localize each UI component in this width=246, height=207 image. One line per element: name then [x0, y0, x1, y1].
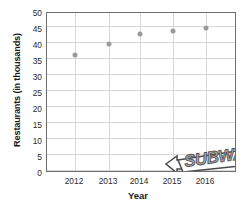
y-tick-label: 35: [22, 57, 42, 65]
gridline-vertical: [75, 13, 76, 171]
data-point: [171, 28, 176, 33]
x-tick-label: 2015: [155, 177, 189, 185]
y-tick-label: 30: [22, 73, 42, 81]
plot-area: SUBWAY ®: [46, 12, 236, 172]
y-tick-label: 5: [22, 153, 42, 161]
x-tick-label: 2013: [91, 177, 125, 185]
data-point: [204, 25, 209, 30]
gridline-vertical: [109, 13, 110, 171]
x-tick-label: 2014: [122, 177, 156, 185]
y-tick-label: 45: [22, 25, 42, 33]
svg-text:SUBWAY: SUBWAY: [183, 142, 236, 171]
data-point: [73, 52, 78, 57]
y-tick-label: 10: [22, 137, 42, 145]
subway-watermark-icon: SUBWAY ®: [165, 141, 236, 172]
y-tick-label: 40: [22, 41, 42, 49]
x-tick-label: 2016: [188, 177, 222, 185]
y-tick-label: 15: [22, 121, 42, 129]
y-tick-label: 20: [22, 105, 42, 113]
gridline-vertical: [173, 13, 174, 171]
data-point: [107, 42, 112, 47]
gridline-vertical: [206, 13, 207, 171]
x-tick-label: 2012: [57, 177, 91, 185]
data-point: [138, 32, 143, 37]
y-tick-label: 50: [22, 9, 42, 17]
y-tick-label: 25: [22, 89, 42, 97]
x-axis-title: Year: [40, 190, 236, 201]
chart-figure: Restaurants (in thousands) 50 45 40 35 3…: [0, 0, 246, 207]
y-tick-label: 0: [22, 169, 42, 177]
